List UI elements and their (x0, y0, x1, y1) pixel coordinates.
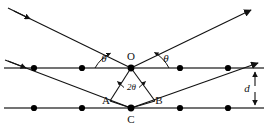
atom-dot-o (128, 65, 135, 72)
atom-dot (177, 65, 183, 71)
atom-dot (31, 105, 37, 111)
point-b-label: B (155, 94, 162, 106)
two-theta-arrow-left (118, 82, 125, 88)
spacing-d-label: d (244, 82, 250, 94)
segment-cb (131, 101, 155, 108)
bragg-diffraction-figure: θ θ O 2θ A B C d (0, 0, 268, 134)
point-a-label: A (102, 94, 110, 106)
theta-right-label: θ (163, 52, 169, 64)
reflected-ray-lower (131, 63, 258, 108)
incident-ray-lower-arrow (8, 61, 26, 68)
point-o-label: O (127, 50, 135, 62)
bragg-diagram-canvas: θ θ O 2θ A B C d (0, 0, 268, 134)
point-c-label: C (127, 113, 134, 125)
two-theta-label: 2θ (127, 82, 137, 92)
reflected-ray-upper (131, 10, 251, 68)
incident-ray-upper-arrow (14, 11, 30, 19)
theta-left-label: θ (101, 52, 107, 64)
atom-dot (177, 105, 183, 111)
atom-dot (225, 105, 231, 111)
atom-dot (79, 65, 85, 71)
atom-dot (225, 65, 231, 71)
atom-dot (79, 105, 85, 111)
atom-dot-c (128, 105, 135, 112)
atom-dot (31, 65, 37, 71)
